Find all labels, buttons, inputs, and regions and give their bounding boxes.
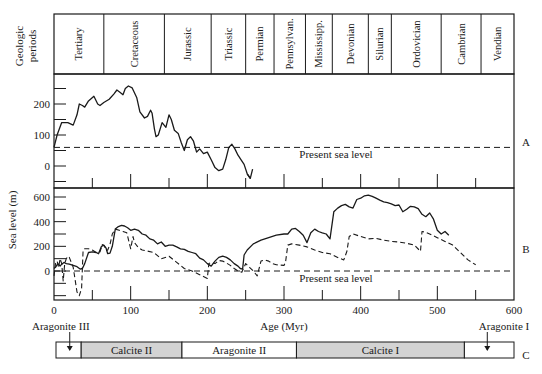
mineralogy-segment-label: Calcite I xyxy=(362,344,400,356)
x-tick-label: 0 xyxy=(51,304,57,316)
periods-label-line2: periods xyxy=(26,30,38,62)
period-label: Tertiary xyxy=(73,27,84,61)
y-tick-label: 0 xyxy=(45,265,51,277)
panel-label-a: A xyxy=(522,136,530,148)
panel-label-c: C xyxy=(522,349,529,361)
panel-a: 0100200Present sea level xyxy=(34,74,515,188)
mineralogy-segment-label: Aragonite II xyxy=(212,344,266,356)
present-sea-level-label: Present sea level xyxy=(299,148,372,160)
marker-label: Aragonite III xyxy=(32,320,90,332)
mineralogy-segment xyxy=(56,342,81,358)
y-tick-label: 200 xyxy=(34,98,51,110)
periods-header-label: Geologic periods xyxy=(13,26,38,66)
period-label: Vendian xyxy=(492,26,503,61)
y-tick-label: 200 xyxy=(34,240,51,252)
mineralogy-segment xyxy=(464,342,514,358)
periods-label-line1: Geologic xyxy=(13,26,25,66)
series-line-tail xyxy=(247,169,252,178)
period-label: Permian xyxy=(254,26,265,62)
x-tick-label: 100 xyxy=(122,304,139,316)
marker-label: Aragonite I xyxy=(479,320,530,332)
x-tick-label: 300 xyxy=(276,304,293,316)
sea-level-chart: Geologic periods TertiaryCretaceousJuras… xyxy=(0,0,542,374)
x-axis: 0100200300400500600 xyxy=(51,304,523,316)
y-tick-label: 600 xyxy=(34,191,51,203)
period-label: Cambrian xyxy=(456,23,467,65)
panel-frame xyxy=(54,74,514,188)
x-tick-label: 400 xyxy=(352,304,369,316)
y-tick-label: 0 xyxy=(45,160,51,172)
period-label: Jurassic xyxy=(182,27,193,61)
period-label: Ordovician xyxy=(411,20,422,68)
geologic-periods-row: TertiaryCretaceousJurassicTriassicPermia… xyxy=(54,14,514,74)
x-tick-label: 200 xyxy=(199,304,216,316)
series-line-solid xyxy=(54,86,250,178)
panel-label-b: B xyxy=(522,243,529,255)
period-label: Silurian xyxy=(374,27,385,61)
x-tick-label: 600 xyxy=(506,304,523,316)
x-axis-label: Age (Myr) xyxy=(260,320,308,333)
panel-frame xyxy=(54,188,514,300)
period-label: Triassic xyxy=(223,27,234,60)
x-tick-label: 500 xyxy=(429,304,446,316)
mineralogy-segment-label: Calcite II xyxy=(111,344,153,356)
y-tick-label: 100 xyxy=(34,129,51,141)
period-label: Devonian xyxy=(345,23,356,65)
present-sea-level-label: Present sea level xyxy=(299,272,372,284)
y-tick-label: 400 xyxy=(34,216,51,228)
panel-b: 0200400600Present sea level xyxy=(34,188,515,300)
y-axis-label: Sea level (m) xyxy=(6,190,19,249)
period-label: Pennsylvan. xyxy=(284,18,295,69)
period-label: Cretaceous xyxy=(129,21,140,68)
period-label: Mississipp. xyxy=(313,20,324,68)
